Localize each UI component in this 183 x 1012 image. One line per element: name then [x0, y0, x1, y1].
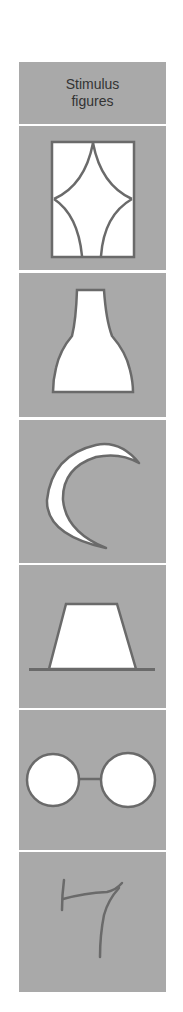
eyeglasses-figure-icon — [19, 710, 166, 850]
trapezoid-figure-icon — [19, 565, 166, 708]
figure-cell-crescent — [19, 420, 166, 563]
figure-cell-eyeglasses — [19, 710, 166, 850]
column-header-text: Stimulus figures — [66, 76, 120, 110]
column-header: Stimulus figures — [19, 62, 166, 124]
header-line-2: figures — [66, 93, 120, 110]
crescent-figure-icon — [19, 420, 166, 563]
bottle-figure-icon — [19, 273, 166, 417]
figure-cell-trapezoid — [19, 565, 166, 708]
figure-cell-seven — [19, 852, 166, 992]
handwritten-seven-icon — [19, 852, 166, 992]
window-figure-icon — [19, 126, 166, 270]
header-line-1: Stimulus — [66, 76, 120, 93]
figure-cell-bottle — [19, 273, 166, 417]
figure-cell-window — [19, 126, 166, 270]
